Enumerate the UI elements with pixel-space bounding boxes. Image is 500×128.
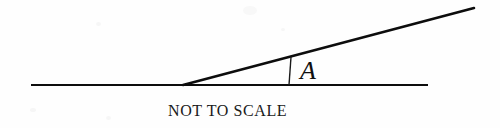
angle-tick-mark [289,57,291,85]
diagonal-ray [183,8,474,85]
angle-label-A: A [300,58,316,84]
angle-diagram-figure: A NOT TO SCALE [0,0,500,128]
figure-caption: NOT TO SCALE [168,103,281,119]
